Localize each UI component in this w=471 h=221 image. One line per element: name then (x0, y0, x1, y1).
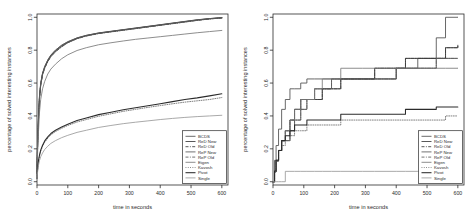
y-tick-label: 0.0 (27, 178, 33, 185)
x-tick-label: 400 (156, 190, 165, 196)
x-tick-label: 200 (330, 190, 339, 196)
x-tick-label: 600 (218, 190, 227, 196)
x-tick-label: 600 (454, 190, 463, 196)
y-tick-label: 0.0 (263, 178, 269, 185)
legend-label-single: Single (198, 176, 211, 181)
y-tick-label: 0.6 (27, 79, 33, 86)
y-axis-title: percentage of solved interesting instanc… (242, 47, 248, 152)
x-tick-label: 200 (94, 190, 103, 196)
y-tick-label: 1.0 (263, 14, 269, 21)
x-tick-label: 100 (63, 190, 72, 196)
y-tick-label: 0.2 (27, 145, 33, 152)
x-axis-title: time in seconds (113, 204, 152, 210)
plot-svg-right: 01002003004005006000.00.20.40.60.81.0tim… (236, 0, 471, 221)
y-tick-label: 0.2 (263, 145, 269, 152)
x-tick-label: 0 (272, 190, 275, 196)
x-tick-label: 100 (299, 190, 308, 196)
x-tick-label: 500 (423, 190, 432, 196)
chart-panel-right: 01002003004005006000.00.20.40.60.81.0tim… (236, 0, 471, 221)
y-tick-label: 0.8 (27, 46, 33, 53)
x-tick-label: 0 (36, 190, 39, 196)
x-tick-label: 400 (392, 190, 401, 196)
legend-label-single: Single (434, 176, 447, 181)
x-tick-label: 300 (361, 190, 370, 196)
y-tick-label: 1.0 (27, 14, 33, 21)
x-tick-label: 500 (187, 190, 196, 196)
plot-svg-left: 01002003004005006000.00.20.40.60.81.0tim… (0, 0, 235, 221)
y-tick-label: 0.8 (263, 46, 269, 53)
x-axis-title: time in seconds (349, 204, 388, 210)
y-tick-label: 0.4 (27, 112, 33, 119)
chart-panel-left: 01002003004005006000.00.20.40.60.81.0tim… (0, 0, 235, 221)
x-tick-label: 300 (125, 190, 134, 196)
y-tick-label: 0.6 (263, 79, 269, 86)
y-tick-label: 0.4 (263, 112, 269, 119)
y-axis-title: percentage of solved interesting instanc… (6, 47, 12, 152)
figure-root: 01002003004005006000.00.20.40.60.81.0tim… (0, 0, 471, 221)
